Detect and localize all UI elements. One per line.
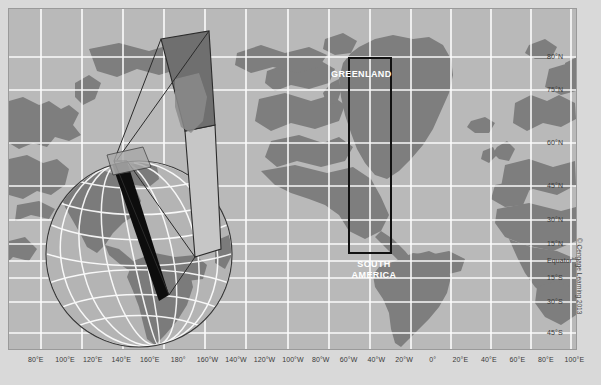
longitude-tick-label: 120°E [83, 356, 103, 363]
latitude-tick-label: 80°N [547, 53, 563, 60]
longitude-tick-label: 120°W [254, 356, 276, 363]
longitude-tick-label: 100°E [55, 356, 75, 363]
latitude-tick-label: 15°N [547, 240, 563, 247]
longitude-tick-label: 20°W [395, 356, 413, 363]
latitude-tick-label: 45°S [547, 329, 563, 336]
latitude-tick-label: 45°N [547, 182, 563, 189]
latitude-tick-label: 15°S [547, 274, 563, 281]
longitude-tick-label: 180° [171, 356, 186, 363]
copyright-credit: © Cengage Learning 2013 [576, 238, 583, 314]
world-map-svg [9, 9, 576, 349]
longitude-tick-label: 160°E [140, 356, 160, 363]
longitude-tick-label: 0° [429, 356, 436, 363]
latitude-tick-label: 30°N [547, 216, 563, 223]
south-america-label: SOUTH AMERICA [339, 259, 409, 281]
latitude-tick-label: 75°N [547, 86, 563, 93]
longitude-tick-label: 100°W [282, 356, 304, 363]
longitude-tick-label: 80°E [538, 356, 554, 363]
figure-root: GREENLAND SOUTH AMERICA 80°E100°E120°E14… [0, 0, 601, 385]
longitude-tick-label: 140°E [111, 356, 131, 363]
latitude-tick-label: 30°S [547, 298, 563, 305]
longitude-tick-label: 40°W [368, 356, 386, 363]
land-canada-islands [265, 135, 353, 167]
south-america-label-line1: SOUTH [339, 259, 409, 270]
latitude-tick-label: 60°N [547, 139, 563, 146]
longitude-tick-label: 80°W [312, 356, 330, 363]
greenland-label: GREENLAND [331, 69, 392, 79]
longitude-tick-label: 80°E [28, 356, 44, 363]
longitude-tick-label: 100°E [565, 356, 585, 363]
longitude-tick-label: 140°W [225, 356, 247, 363]
latitude-tick-label: Equator [547, 257, 572, 264]
longitude-tick-label: 60°W [340, 356, 358, 363]
longitude-tick-label: 160°W [197, 356, 219, 363]
longitude-tick-label: 20°E [453, 356, 469, 363]
world-map-frame: GREENLAND SOUTH AMERICA [8, 8, 577, 350]
longitude-tick-label: 60°E [510, 356, 526, 363]
longitude-tick-label: 40°E [481, 356, 497, 363]
south-america-label-line2: AMERICA [339, 270, 409, 281]
